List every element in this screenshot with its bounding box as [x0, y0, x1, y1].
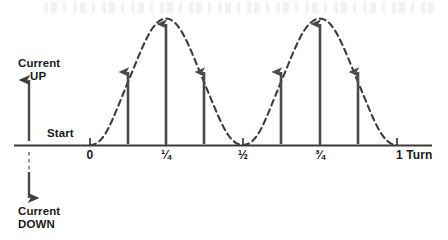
tick-label-half: ½ [223, 149, 263, 162]
start-label: Start [47, 127, 74, 140]
pulsating-current-diagram: Current UP Current DOWN Start 0 ¼ ½ ¾ 1 … [0, 0, 448, 240]
current-arrow-group-second-hump [281, 24, 358, 144]
diagram-canvas [0, 0, 448, 240]
current-down-label-line2: DOWN [18, 218, 55, 230]
current-up-label-line2: UP [18, 70, 46, 82]
tick-label-three-quarter: ¾ [300, 149, 340, 162]
current-down-label: Current DOWN [18, 205, 60, 231]
current-down-label-line1: Current [18, 205, 60, 217]
rectified-sine-curve [90, 19, 397, 146]
current-arrow-group-first-hump [128, 24, 204, 144]
tick-label-quarter: ¼ [146, 149, 186, 162]
current-up-label: Current UP [18, 57, 60, 83]
horizontal-axis [14, 138, 432, 146]
current-up-label-line1: Current [18, 57, 60, 69]
tick-label-0: 0 [70, 149, 110, 162]
tick-label-one-turn: 1 Turn [396, 149, 432, 162]
